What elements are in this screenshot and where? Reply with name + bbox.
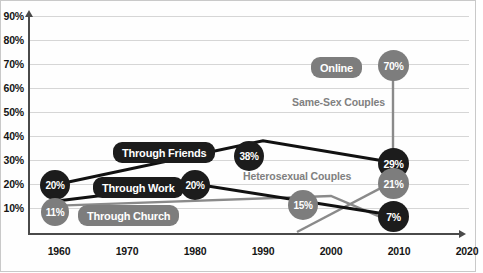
marker-2000-through-church[interactable]: 15%: [288, 190, 318, 220]
marker-1980-through-work[interactable]: 20%: [180, 170, 210, 200]
pill-through-friends[interactable]: Through Friends: [113, 142, 215, 163]
annotation-same-sex-couples: Same-Sex Couples: [292, 96, 385, 108]
marker-2015-online-same-sex[interactable]: 70%: [378, 50, 409, 81]
marker-1960-through-church[interactable]: 11%: [41, 198, 69, 226]
annotation-heterosexual-couples: Heterosexual Couples: [243, 170, 351, 182]
marker-2015-online-heterosexual[interactable]: 21%: [378, 168, 409, 199]
marker-1990-through-friends[interactable]: 38%: [234, 141, 264, 171]
marker-1960-through-friends[interactable]: 20%: [40, 170, 70, 200]
pill-through-church[interactable]: Through Church: [78, 205, 179, 226]
pill-online[interactable]: Online: [311, 57, 362, 78]
marker-2015-through-work[interactable]: 7%: [378, 201, 409, 232]
pill-through-work[interactable]: Through Work: [93, 177, 184, 198]
